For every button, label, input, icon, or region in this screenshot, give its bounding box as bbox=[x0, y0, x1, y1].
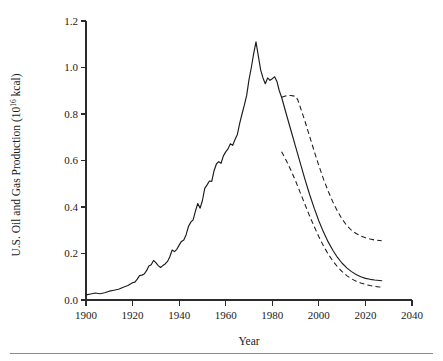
series-line bbox=[282, 152, 382, 288]
y-tick-label: 0.0 bbox=[64, 294, 78, 306]
x-tick-label: 2040 bbox=[401, 309, 424, 321]
x-tick-label: 1980 bbox=[261, 309, 284, 321]
x-axis-ticks bbox=[86, 300, 412, 306]
x-tick-label: 2000 bbox=[308, 309, 331, 321]
x-tick-label: 1900 bbox=[75, 309, 98, 321]
x-tick-label: 1920 bbox=[122, 309, 145, 321]
y-tick-label: 1.2 bbox=[64, 15, 78, 27]
y-axis-tick-labels: 0.00.20.40.60.81.01.2 bbox=[64, 15, 78, 306]
x-tick-label: 1960 bbox=[215, 309, 238, 321]
x-tick-label: 2020 bbox=[354, 309, 377, 321]
series-line bbox=[282, 95, 382, 240]
x-axis-title: Year bbox=[238, 335, 259, 347]
series-line bbox=[86, 42, 382, 295]
x-axis-tick-labels: 19001920194019601980200020202040 bbox=[75, 309, 424, 321]
y-axis-title-tail: kcal) bbox=[10, 73, 23, 99]
svg-text:U.S. Oil and Gas Production (1: U.S. Oil and Gas Production (1016 kcal) bbox=[9, 73, 23, 256]
y-axis-title-main: U.S. Oil and Gas Production (10 bbox=[10, 107, 23, 257]
y-tick-label: 0.2 bbox=[64, 247, 78, 259]
y-axis-ticks bbox=[81, 21, 86, 300]
y-tick-label: 0.8 bbox=[64, 108, 78, 120]
y-axis-title: U.S. Oil and Gas Production (1016 kcal) bbox=[9, 73, 23, 256]
data-series-group bbox=[86, 42, 382, 295]
oil-gas-production-line-chart: 0.00.20.40.60.81.01.2 190019201940196019… bbox=[0, 0, 443, 361]
y-tick-label: 0.6 bbox=[64, 154, 78, 166]
plot-axes bbox=[86, 21, 412, 300]
figure-container: 0.00.20.40.60.81.01.2 190019201940196019… bbox=[0, 0, 443, 361]
y-tick-label: 1.0 bbox=[64, 61, 78, 73]
x-tick-label: 1940 bbox=[168, 309, 191, 321]
y-tick-label: 0.4 bbox=[64, 201, 78, 213]
